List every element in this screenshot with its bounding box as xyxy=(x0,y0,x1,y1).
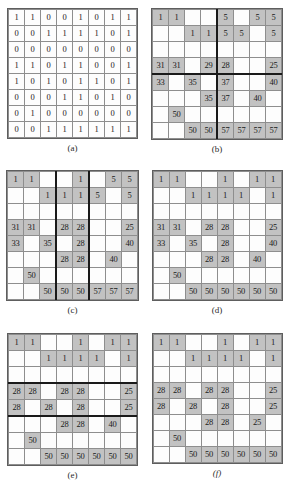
grid-cell: 1 xyxy=(24,172,40,188)
grid-cell: 1 xyxy=(73,90,89,106)
grid-cell xyxy=(24,236,40,252)
grid-cell: 28 xyxy=(56,252,73,268)
grid-cell: 57 xyxy=(250,123,266,139)
grid-cell: 0 xyxy=(105,74,121,90)
grid-cell xyxy=(250,26,266,42)
grid-cell xyxy=(169,26,185,42)
grid-cell: 50 xyxy=(41,449,57,465)
grid-cell: 31 xyxy=(169,220,185,236)
grid-cell: 1 xyxy=(57,58,73,74)
grid-cell xyxy=(169,447,185,463)
grid-cell xyxy=(250,74,266,91)
grid-cell xyxy=(233,399,249,415)
grid-table: 1100101100111101000000001101100110101101… xyxy=(8,9,137,138)
grid-cell xyxy=(56,236,73,252)
grid-cell: 1 xyxy=(121,335,137,351)
grid-row: 33352840 xyxy=(8,236,138,252)
grid-cell: 1 xyxy=(89,122,105,138)
grid-cell xyxy=(169,399,185,415)
grid-cell xyxy=(89,400,105,417)
grid-cell xyxy=(89,204,106,220)
grid-row: 282840 xyxy=(8,252,138,268)
grid-cell: 28 xyxy=(217,58,234,75)
grid-cell: 50 xyxy=(249,447,265,463)
grid-cell: 5 xyxy=(234,26,250,42)
grid-cell xyxy=(201,431,217,447)
grid-cell: 28 xyxy=(73,252,90,268)
grid-cell xyxy=(185,268,201,284)
grid-cell: 0 xyxy=(9,106,25,122)
grid-cell: 28 xyxy=(73,400,89,417)
grid-cell xyxy=(185,58,201,75)
grid-cell xyxy=(234,74,250,91)
grid-cell: 0 xyxy=(57,106,73,122)
grid-cell xyxy=(9,416,25,433)
grid-cell: 28 xyxy=(56,220,73,236)
grid-cell xyxy=(24,252,40,268)
grid-cell xyxy=(153,431,169,447)
grid-cell xyxy=(73,433,89,449)
grid-cell: 50 xyxy=(185,284,201,300)
grid-row: 28282825 xyxy=(153,399,281,415)
grid-cell xyxy=(41,433,57,449)
grid-cell: 31 xyxy=(153,220,169,236)
grid-cell xyxy=(233,220,249,236)
grid-cell xyxy=(24,204,40,220)
grid-cell xyxy=(185,172,201,188)
grid-cell xyxy=(153,123,169,139)
grid-cell: 50 xyxy=(40,284,57,300)
grid-cell xyxy=(8,252,24,268)
grid-cell: 0 xyxy=(41,90,57,106)
grid-cell: 5 xyxy=(122,172,138,188)
panel-f: 1111111111282828282528282825282825505050… xyxy=(145,325,289,492)
grid-cell xyxy=(153,367,169,383)
grid-cell: 5 xyxy=(217,10,234,26)
label-grid: 1155511555313129282533353740353740505050… xyxy=(151,8,283,140)
grid-cell xyxy=(265,367,281,383)
grid-cell: 0 xyxy=(25,42,41,58)
grid-cell xyxy=(250,107,266,123)
grid-cell xyxy=(121,367,137,384)
grid-cell xyxy=(105,400,121,417)
grid-cell: 1 xyxy=(41,122,57,138)
grid-cell xyxy=(169,236,185,252)
grid-cell xyxy=(169,204,185,220)
grid-row: 33352840 xyxy=(153,236,281,252)
grid-cell: 50 xyxy=(201,447,217,463)
grid-cell xyxy=(40,268,57,284)
grid-cell: 28 xyxy=(73,236,90,252)
grid-cell xyxy=(41,383,57,400)
grid-cell xyxy=(266,91,282,107)
grid-cell: 28 xyxy=(217,383,233,399)
grid-cell: 5 xyxy=(89,188,106,204)
grid-cell: 50 xyxy=(121,449,137,465)
grid-row: 11011001 xyxy=(9,58,137,74)
grid-cell: 1 xyxy=(169,10,185,26)
grid-cell xyxy=(153,91,169,107)
grid-cell: 1 xyxy=(73,335,89,351)
grid-cell xyxy=(105,351,121,367)
grid-cell xyxy=(234,58,250,75)
grid-cell xyxy=(233,335,249,351)
grid-cell: 25 xyxy=(249,415,265,431)
grid-cell xyxy=(185,415,201,431)
grid-cell xyxy=(89,335,105,351)
grid-cell xyxy=(250,58,266,75)
grid-cell xyxy=(265,268,281,284)
grid-cell xyxy=(153,415,169,431)
grid-cell: 40 xyxy=(249,252,265,268)
grid-cell: 1 xyxy=(8,172,24,188)
grid-cell: 50 xyxy=(217,447,233,463)
grid-cell: 31 xyxy=(8,220,24,236)
label-grid: 1115511155313128282533352840282840505050… xyxy=(6,170,139,301)
grid-cell: 0 xyxy=(25,122,41,138)
grid-cell xyxy=(169,284,185,300)
grid-cell: 28 xyxy=(9,400,25,417)
grid-row: 11111 xyxy=(9,351,137,367)
grid-cell xyxy=(185,42,201,58)
grid-cell: 1 xyxy=(265,335,281,351)
grid-cell xyxy=(233,172,249,188)
grid-cell xyxy=(185,383,201,399)
grid-cell xyxy=(89,383,105,400)
grid-cell xyxy=(169,74,185,91)
